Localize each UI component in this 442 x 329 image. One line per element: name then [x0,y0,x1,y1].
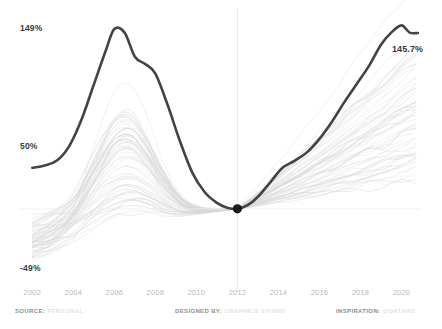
footer-inspiration-value: @DATAVIZ [382,308,415,314]
footer-source: SOURCE: PERSONAL [15,308,83,314]
y-axis-label-bottom: -49% [20,263,41,273]
y-axis-label-mid: 50% [20,141,38,151]
footer-designer-value: GRAPHICS STUDIO [224,308,285,314]
background-series-group [32,0,416,261]
footer-inspiration-key: INSPIRATION: [336,308,380,314]
background-series-line [32,147,237,249]
spaghetti-chart-svg [0,0,442,329]
chart-canvas: 149% 50% -49% 145.7% 2002200420062008201… [0,0,442,329]
end-value-annotation: 145.7% [392,44,423,54]
x-tick-2018: 2018 [352,288,370,297]
x-tick-2006: 2006 [106,288,124,297]
y-axis-label-top: 149% [20,23,43,33]
x-tick-2016: 2016 [311,288,329,297]
x-axis-tick-labels: 2002200420062008201020122014201620182020 [0,288,442,300]
chart-footer: SOURCE: PERSONAL DESIGNED BY: GRAPHICS S… [0,308,442,322]
x-tick-2002: 2002 [24,288,42,297]
footer-source-key: SOURCE: [15,308,45,314]
x-tick-2004: 2004 [65,288,83,297]
x-tick-2014: 2014 [270,288,288,297]
footer-designer: DESIGNED BY: GRAPHICS STUDIO [175,308,285,314]
footer-source-value: PERSONAL [47,308,83,314]
x-tick-2012: 2012 [229,288,247,297]
x-tick-2010: 2010 [188,288,206,297]
footer-designer-key: DESIGNED BY: [175,308,222,314]
x-tick-2020: 2020 [393,288,411,297]
origin-marker-dot [233,204,242,213]
footer-inspiration: INSPIRATION: @DATAVIZ [336,308,416,314]
x-tick-2008: 2008 [147,288,165,297]
